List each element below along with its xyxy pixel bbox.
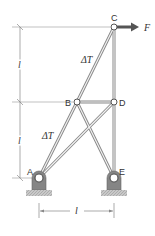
node-label-a: A [27, 167, 33, 177]
node-label-d: D [119, 98, 126, 108]
force-arrow-icon [117, 23, 139, 32]
member-label-upper: ΔT [80, 54, 94, 65]
truss-diagram: C B D A E F ΔT ΔT l l l [0, 0, 155, 236]
joint-d [111, 99, 117, 105]
load-label: F [143, 22, 151, 33]
dimension-label-vertical-upper: l [18, 59, 21, 70]
node-label-b: B [65, 98, 71, 108]
dimension-lines [12, 24, 114, 218]
dimension-label-horizontal: l [75, 205, 78, 216]
dimension-label-vertical-lower: l [18, 135, 21, 146]
joint-c [111, 24, 117, 30]
member-label-lower: ΔT [41, 130, 55, 141]
joint-b [74, 99, 80, 105]
node-label-e: E [119, 167, 125, 177]
node-label-c: C [111, 13, 118, 23]
